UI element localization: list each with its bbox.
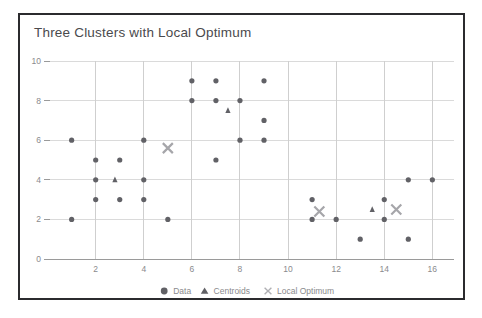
data-point-circle — [406, 177, 411, 182]
y-tick-label: 10 — [32, 56, 42, 66]
local-optimum-marker-x — [391, 205, 401, 215]
data-point-circle — [165, 217, 170, 222]
data-point-circle — [237, 98, 242, 103]
y-tick-label: 0 — [36, 254, 41, 264]
data-point-circle — [261, 138, 266, 143]
legend-label: Data — [173, 286, 191, 296]
data-point-circle — [93, 177, 98, 182]
x-tick-label: 10 — [283, 264, 293, 274]
centroid-marker-triangle — [370, 206, 375, 212]
data-point-circle — [141, 197, 146, 202]
data-point-circle — [117, 157, 122, 162]
legend-label: Local Optimum — [277, 286, 334, 296]
data-point-circle — [310, 197, 315, 202]
data-point-circle — [430, 177, 435, 182]
data-point-circle — [141, 177, 146, 182]
chart-legend: DataCentroidsLocal Optimum — [161, 286, 334, 296]
x-tick-label: 12 — [331, 264, 341, 274]
data-point-circle — [310, 217, 315, 222]
data-point-circle — [117, 197, 122, 202]
tick-labels: 0246810246810121416 — [32, 56, 438, 274]
legend-triangle-icon — [201, 287, 209, 293]
x-tick-label: 16 — [428, 264, 438, 274]
legend-circle-icon — [161, 288, 168, 295]
data-point-circle — [213, 98, 218, 103]
x-tick-label: 14 — [380, 264, 390, 274]
data-point-circle — [382, 197, 387, 202]
local-optimum-marker-x — [314, 206, 324, 216]
legend-item-data[interactable]: Data — [161, 286, 192, 296]
y-tick-label: 6 — [36, 135, 41, 145]
y-tick-label: 2 — [36, 214, 41, 224]
gridlines — [50, 61, 454, 259]
plot-area: 0246810246810121416 DataCentroidsLocal O… — [20, 15, 463, 298]
data-point-circle — [141, 138, 146, 143]
data-point-circle — [189, 78, 194, 83]
legend-item-centroids[interactable]: Centroids — [201, 286, 250, 296]
data-point-circle — [213, 78, 218, 83]
y-tick-label: 4 — [36, 175, 41, 185]
data-point-circle — [69, 138, 74, 143]
legend-label: Centroids — [214, 286, 250, 296]
data-point-circle — [237, 138, 242, 143]
data-point-circle — [261, 118, 266, 123]
legend-x-icon — [265, 288, 272, 294]
x-tick-label: 4 — [141, 264, 146, 274]
data-point-circle — [261, 78, 266, 83]
data-point-circle — [213, 157, 218, 162]
data-point-circle — [382, 217, 387, 222]
chart-frame: Three Clusters with Local Optimum 024681… — [18, 13, 465, 300]
y-tick-label: 8 — [36, 96, 41, 106]
data-point-circle — [93, 197, 98, 202]
data-point-circle — [358, 237, 363, 242]
scatter-plot-svg: 0246810246810121416 DataCentroidsLocal O… — [20, 15, 467, 302]
data-point-circle — [406, 237, 411, 242]
legend-item-local-optimum[interactable]: Local Optimum — [265, 286, 335, 296]
x-tick-label: 6 — [190, 264, 195, 274]
data-point-circle — [189, 98, 194, 103]
data-point-circle — [69, 217, 74, 222]
data-point-circle — [93, 157, 98, 162]
centroid-marker-triangle — [225, 107, 230, 113]
data-points — [69, 78, 435, 242]
x-tick-label: 2 — [93, 264, 98, 274]
local-optimum-marker-x — [163, 143, 173, 153]
x-tick-label: 8 — [238, 264, 243, 274]
data-point-circle — [334, 217, 339, 222]
